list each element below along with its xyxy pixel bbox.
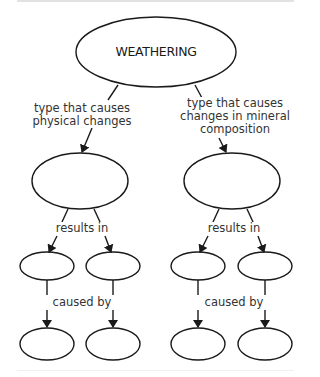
connector-root-left bbox=[108, 85, 118, 100]
arrow-to-physical-node bbox=[82, 128, 92, 152]
results-arrow-right-b bbox=[258, 236, 264, 252]
results-arrow-left-b bbox=[105, 236, 111, 252]
cause-node-3 bbox=[171, 328, 225, 360]
link-label-chemical-line-3: composition bbox=[172, 123, 298, 136]
chemical-weathering-node bbox=[184, 153, 280, 209]
result-node-3 bbox=[171, 252, 225, 280]
root-label: WEATHERING bbox=[76, 44, 236, 59]
caused-by-label-right: caused by bbox=[201, 296, 267, 309]
results-arrow-right-a bbox=[200, 236, 208, 252]
link-label-physical: type that causes physical changes bbox=[20, 102, 144, 128]
results-in-label-left: results in bbox=[50, 222, 114, 235]
result-node-4 bbox=[238, 252, 292, 280]
link-label-physical-line-2: physical changes bbox=[22, 115, 142, 128]
physical-weathering-node bbox=[32, 153, 128, 209]
cause-node-1 bbox=[20, 328, 74, 360]
cause-node-2 bbox=[86, 328, 140, 360]
result-node-1 bbox=[20, 252, 74, 280]
caused-by-label-left: caused by bbox=[50, 296, 114, 309]
results-in-label-right: results in bbox=[202, 222, 266, 235]
results-arrow-left-a bbox=[49, 236, 57, 252]
link-label-chemical: type that causes changes in mineral comp… bbox=[170, 97, 300, 136]
cause-node-4 bbox=[238, 328, 292, 360]
arrow-to-chemical-node bbox=[219, 138, 226, 152]
result-node-2 bbox=[86, 252, 140, 280]
